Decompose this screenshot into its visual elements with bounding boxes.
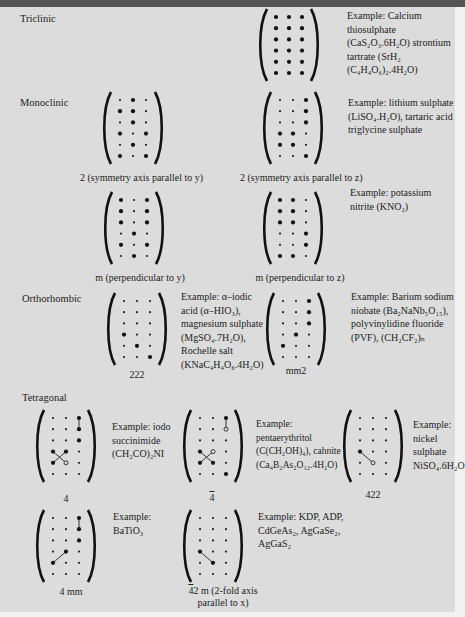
large-dot-icon <box>135 344 139 348</box>
small-dot-icon <box>133 244 135 246</box>
matrix-tetragonal-422 <box>342 408 404 484</box>
large-dot-icon <box>358 450 362 454</box>
right-bracket-icon <box>311 9 318 81</box>
large-dot-icon <box>64 550 68 554</box>
large-dot-icon <box>278 254 282 258</box>
small-dot-icon <box>145 144 147 146</box>
large-dot-icon <box>145 220 149 224</box>
small-dot-icon <box>120 233 122 235</box>
small-dot-icon <box>199 539 201 541</box>
small-dot-icon <box>136 322 138 324</box>
example-222: Example: α–iodic acid (α–HIO₃), magnesiu… <box>181 290 269 371</box>
open-circle-icon <box>211 450 215 454</box>
large-dot-icon <box>144 132 148 136</box>
small-dot-icon <box>52 428 54 430</box>
small-dot-icon <box>133 221 135 223</box>
large-dot-icon <box>132 254 136 258</box>
right-bracket-icon <box>395 410 402 482</box>
large-dot-icon <box>77 416 81 420</box>
large-dot-icon <box>224 472 228 476</box>
large-dot-icon <box>119 243 123 247</box>
small-dot-icon <box>212 439 214 441</box>
small-dot-icon <box>282 322 284 324</box>
small-dot-icon <box>65 439 67 441</box>
open-circle-icon <box>64 461 68 465</box>
small-dot-icon <box>78 551 80 553</box>
small-dot-icon <box>282 334 284 336</box>
small-dot-icon <box>212 473 214 475</box>
small-dot-icon <box>52 439 54 441</box>
small-dot-icon <box>279 244 281 246</box>
small-dot-icon <box>146 233 148 235</box>
small-dot-icon <box>65 517 67 519</box>
left-bracket-icon <box>184 410 191 482</box>
large-dot-icon <box>304 109 308 113</box>
small-dot-icon <box>136 334 138 336</box>
caption-2y: 2 (symmetry axis parallel to y) <box>80 172 200 183</box>
large-dot-icon <box>224 416 228 420</box>
large-dot-icon <box>278 209 282 213</box>
large-dot-icon <box>77 516 81 520</box>
label-triclinic: Triclinic <box>20 13 56 24</box>
large-dot-icon <box>300 37 304 41</box>
small-dot-icon <box>145 99 147 101</box>
small-dot-icon <box>292 233 294 235</box>
small-dot-icon <box>65 562 67 564</box>
example-42m: Example: KDP, ADP, CdGeAs₂, AgGaSe₂, AgG… <box>258 510 368 551</box>
large-dot-icon <box>278 132 282 136</box>
right-bracket-icon <box>156 192 163 264</box>
caption-42m-line2: parallel to x) <box>178 597 268 609</box>
small-dot-icon <box>52 539 54 541</box>
small-dot-icon <box>199 439 201 441</box>
large-dot-icon <box>294 333 298 337</box>
large-dot-icon <box>291 209 295 213</box>
small-dot-icon <box>292 110 294 112</box>
caption-mm2: mm2 <box>276 365 316 376</box>
small-dot-icon <box>119 99 121 101</box>
small-dot-icon <box>78 462 80 464</box>
right-bracket-icon <box>88 510 95 582</box>
small-dot-icon <box>133 210 135 212</box>
left-bracket-icon <box>105 192 112 264</box>
small-dot-icon <box>149 311 151 313</box>
small-dot-icon <box>225 528 227 530</box>
small-dot-icon <box>279 233 281 235</box>
small-dot-icon <box>385 439 387 441</box>
large-dot-icon <box>304 98 308 102</box>
small-dot-icon <box>295 322 297 324</box>
small-dot-icon <box>212 428 214 430</box>
small-dot-icon <box>295 356 297 358</box>
small-dot-icon <box>65 573 67 575</box>
large-dot-icon <box>145 209 149 213</box>
caption-42m-rest: 2 m (2-fold axis <box>193 585 257 596</box>
small-dot-icon <box>225 539 227 541</box>
small-dot-icon <box>52 517 54 519</box>
large-dot-icon <box>51 461 55 465</box>
large-dot-icon <box>132 232 136 236</box>
large-dot-icon <box>304 232 308 236</box>
left-bracket-icon <box>264 192 271 264</box>
large-dot-icon <box>304 154 308 158</box>
small-dot-icon <box>123 356 125 358</box>
top-bar <box>0 0 465 7</box>
caption-4: 4 <box>56 493 76 504</box>
small-dot-icon <box>136 311 138 313</box>
small-dot-icon <box>65 539 67 541</box>
small-dot-icon <box>279 121 281 123</box>
matrix-monoclinic-2z <box>262 90 324 166</box>
caption-222: 222 <box>117 369 157 380</box>
label-monoclinic: Monoclinic <box>20 97 68 108</box>
matrix-tetragonal-4mm <box>35 508 97 584</box>
small-dot-icon <box>149 300 151 302</box>
large-dot-icon <box>77 427 81 431</box>
large-dot-icon <box>304 120 308 124</box>
large-dot-icon <box>64 450 68 454</box>
right-bracket-icon <box>155 92 162 164</box>
small-dot-icon <box>225 517 227 519</box>
small-dot-icon <box>52 417 54 419</box>
large-dot-icon <box>291 198 295 202</box>
example-mm2: Example: Barium sodium niobate (Ba₂NaNb₅… <box>351 290 455 344</box>
small-dot-icon <box>78 562 80 564</box>
large-dot-icon <box>198 450 202 454</box>
right-bracket-icon <box>159 293 166 365</box>
